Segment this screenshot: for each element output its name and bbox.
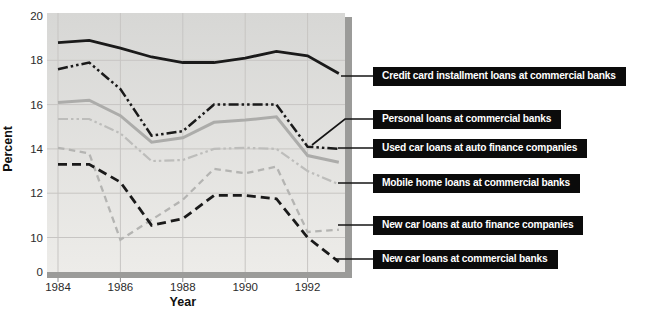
x-tick-label: 1992 <box>295 281 321 293</box>
x-tick-label: 1988 <box>170 281 196 293</box>
callout-mobile-home-loans: Mobile home loans at commercial banks <box>373 174 580 193</box>
callout-used-car-loans: Used car loans at auto finance companies <box>373 139 587 158</box>
x-tick-label: 1990 <box>232 281 258 293</box>
y-tick-label: 18 <box>30 54 43 66</box>
plot-area <box>47 13 345 272</box>
callout-new-car-auto-finance-loans: New car loans at auto finance companies <box>373 216 583 235</box>
x-axis-title: Year <box>170 295 197 309</box>
x-axis-baseline <box>47 272 352 278</box>
callout-new-car-bank-loans: New car loans at commercial banks <box>373 250 558 269</box>
y-tick-label: 10 <box>30 232 43 244</box>
y-tick-label: 16 <box>30 99 43 111</box>
y-tick-label: 20 <box>30 10 43 22</box>
y-tick-label: 12 <box>30 187 43 199</box>
callout-credit-card-loans: Credit card installment loans at commerc… <box>373 67 626 86</box>
y-tick-label: 14 <box>30 143 43 155</box>
callout-personal-loans: Personal loans at commercial banks <box>373 110 561 129</box>
consumer-loan-rates-figure: 201816141210019841986198819901992Percent… <box>0 0 657 317</box>
line-chart: 201816141210019841986198819901992Percent… <box>0 0 657 317</box>
y-tick-label: 0 <box>37 266 43 278</box>
x-tick-label: 1984 <box>45 281 71 293</box>
x-tick-label: 1986 <box>108 281 134 293</box>
y-axis-title: Percent <box>1 125 15 172</box>
